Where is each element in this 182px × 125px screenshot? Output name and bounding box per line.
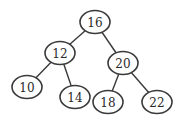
tree-node-16: 16: [80, 11, 110, 34]
nodes: 16122010141822: [12, 11, 172, 114]
tree-node-12: 12: [45, 42, 75, 65]
node-label: 12: [52, 47, 67, 61]
tree-node-20: 20: [108, 52, 138, 75]
tree-node-18: 18: [93, 91, 123, 114]
node-label: 22: [149, 96, 164, 110]
tree-node-10: 10: [12, 76, 42, 99]
tree-diagram: 16122010141822: [0, 0, 182, 125]
node-label: 16: [87, 16, 102, 30]
tree-node-14: 14: [60, 86, 90, 109]
node-label: 20: [115, 57, 130, 71]
tree-node-22: 22: [142, 91, 172, 114]
node-label: 18: [100, 96, 115, 110]
node-label: 10: [19, 81, 34, 95]
node-label: 14: [67, 91, 83, 105]
